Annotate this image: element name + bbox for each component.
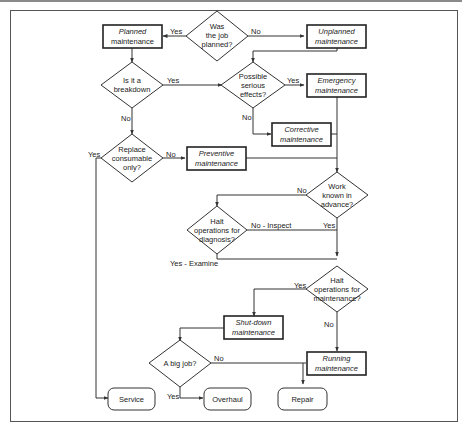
svg-text:planned?: planned? <box>202 40 233 49</box>
svg-text:Halt: Halt <box>210 217 224 226</box>
decision-possible-serious-effects: Possible serious effects? <box>221 62 285 108</box>
svg-text:Work: Work <box>328 182 346 191</box>
edge-label-breakdown-no: No <box>121 114 131 123</box>
svg-text:breakdown: breakdown <box>114 85 151 94</box>
terminal-repair: Repair <box>278 388 327 410</box>
process-running-maintenance: Running maintenance <box>307 352 366 375</box>
svg-text:operations for: operations for <box>194 226 240 235</box>
svg-text:only?: only? <box>123 163 141 172</box>
edge-label-serious-no: No <box>242 113 252 122</box>
terminal-service: Service <box>108 388 155 410</box>
decision-replace-consumable-only: Replace consumable only? <box>101 134 163 182</box>
decision-big-job: A big job? <box>149 340 211 387</box>
decision-is-breakdown: Is it a breakdown <box>101 62 163 108</box>
svg-text:Possible: Possible <box>239 72 267 81</box>
edge-label-halt-diag-yes: Yes - Examine <box>170 259 218 268</box>
svg-text:consumable: consumable <box>112 154 152 163</box>
svg-text:maintenance: maintenance <box>232 328 275 337</box>
svg-text:maintenance?: maintenance? <box>313 294 360 303</box>
edge-label-halt-diag-no: No - Inspect <box>251 221 292 230</box>
svg-text:Shut-down: Shut-down <box>236 318 272 327</box>
terminal-overhaul: Overhaul <box>204 388 251 410</box>
process-unplanned-maintenance: Unplanned maintenance <box>307 25 366 48</box>
edge-label-big-job-yes: Yes <box>167 392 179 401</box>
flowchart: Was the job planned? Planned maintenance… <box>0 0 466 444</box>
edge-label-serious-yes: Yes <box>287 76 299 85</box>
svg-text:Planned: Planned <box>119 27 147 36</box>
svg-text:operations for: operations for <box>314 285 360 294</box>
process-corrective-maintenance: Corrective maintenance <box>272 123 331 146</box>
svg-text:Service: Service <box>119 395 144 404</box>
svg-text:diagnosis?: diagnosis? <box>199 235 235 244</box>
decision-was-job-planned: Was the job planned? <box>186 11 248 61</box>
process-shutdown-maintenance: Shut-down maintenance <box>224 316 283 339</box>
decision-halt-operations-for-diagnosis: Halt operations for diagnosis? <box>187 206 247 254</box>
edge-label-replace-no: No <box>166 150 176 159</box>
svg-text:maintenance: maintenance <box>315 37 358 46</box>
svg-text:known in: known in <box>322 191 352 200</box>
svg-text:A big job?: A big job? <box>164 359 197 368</box>
diagram-frame <box>11 11 458 422</box>
svg-text:Replace: Replace <box>118 145 146 154</box>
process-preventive-maintenance: Preventive maintenance <box>187 147 246 170</box>
svg-text:Was: Was <box>210 22 225 31</box>
edge-label-halt-maint-no: No <box>324 320 334 329</box>
svg-text:maintenance: maintenance <box>315 364 358 373</box>
svg-text:advance?: advance? <box>321 200 354 209</box>
svg-text:maintenance: maintenance <box>111 37 154 46</box>
svg-text:Unplanned: Unplanned <box>318 27 355 36</box>
svg-text:Running: Running <box>323 354 352 363</box>
edge-label-was-planned-no: No <box>251 27 261 36</box>
svg-text:Corrective: Corrective <box>284 125 318 134</box>
svg-text:effects?: effects? <box>240 90 266 99</box>
edge-label-halt-maint-yes: Yes <box>294 281 306 290</box>
edge-label-work-known-yes: Yes <box>323 221 335 230</box>
edge-label-work-known-no: No <box>297 186 307 195</box>
svg-text:Is it a: Is it a <box>123 76 142 85</box>
process-planned-maintenance: Planned maintenance <box>103 25 162 48</box>
svg-text:the job: the job <box>206 31 229 40</box>
decision-halt-operations-for-maintenance: Halt operations for maintenance? <box>306 266 368 312</box>
svg-text:maintenance: maintenance <box>195 159 238 168</box>
svg-text:serious: serious <box>241 81 265 90</box>
decision-work-known-in-advance: Work known in advance? <box>306 172 368 218</box>
edge-label-breakdown-yes: Yes <box>167 76 179 85</box>
edge-label-replace-yes: Yes <box>88 150 100 159</box>
svg-text:Overhaul: Overhaul <box>212 395 243 404</box>
svg-text:Repair: Repair <box>291 395 314 404</box>
process-emergency-maintenance: Emergency maintenance <box>307 74 366 97</box>
svg-text:maintenance: maintenance <box>315 86 358 95</box>
edge-label-was-planned-yes: Yes <box>170 27 182 36</box>
svg-text:Preventive: Preventive <box>199 149 234 158</box>
svg-text:maintenance: maintenance <box>280 135 323 144</box>
svg-text:Halt: Halt <box>330 276 344 285</box>
svg-text:Emergency: Emergency <box>318 76 357 85</box>
edge-label-big-job-no: No <box>214 354 224 363</box>
